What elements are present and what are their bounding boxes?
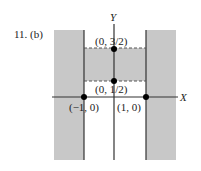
point-1-0 — [143, 94, 149, 100]
label-p-left: (−1, 0) — [69, 101, 99, 114]
region-diagram: 11. (b) Y X (0, 3/2) (0, 1/2) (−1, 0) (1… — [0, 0, 201, 171]
label-p-top: (0, 3/2) — [95, 35, 128, 48]
y-axis-label: Y — [110, 11, 118, 23]
point-neg1-0 — [81, 94, 87, 100]
right-shaded-region — [146, 30, 176, 160]
middle-shaded-band — [84, 48, 146, 81]
label-p-right: (1, 0) — [117, 101, 141, 114]
left-shaded-region — [54, 30, 84, 160]
problem-label: 11. (b) — [14, 28, 43, 41]
x-axis-label: X — [179, 91, 188, 103]
label-p-mid: (0, 1/2) — [95, 83, 128, 96]
